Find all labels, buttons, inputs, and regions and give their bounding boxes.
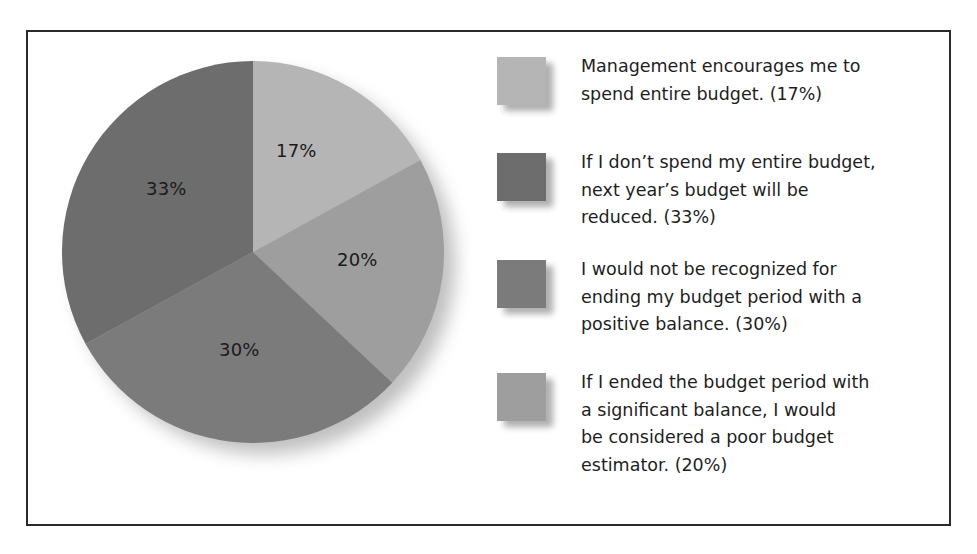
legend-item-not-recognized: I would not be recognized for ending my …	[497, 260, 937, 360]
legend-swatch	[497, 153, 546, 201]
legend-text: Management encourages me to spend entire…	[581, 53, 941, 108]
legend-item-budget-reduced: If I don’t spend my entire budget, next …	[497, 153, 937, 253]
legend-swatch	[497, 373, 546, 421]
slice-label-30: 30%	[219, 339, 260, 360]
legend-text: I would not be recognized for ending my …	[581, 256, 941, 339]
slice-label-33: 33%	[146, 178, 187, 199]
slice-label-20: 20%	[337, 249, 378, 270]
legend-swatch	[497, 260, 546, 308]
legend-item-poor-estimator: If I ended the budget period with a sign…	[497, 373, 937, 473]
legend-text: If I ended the budget period with a sign…	[581, 369, 941, 479]
legend-item-management-encourages: Management encourages me to spend entire…	[497, 57, 937, 157]
slice-label-17: 17%	[276, 140, 317, 161]
legend-swatch	[497, 57, 546, 105]
legend-text: If I don’t spend my entire budget, next …	[581, 149, 941, 232]
